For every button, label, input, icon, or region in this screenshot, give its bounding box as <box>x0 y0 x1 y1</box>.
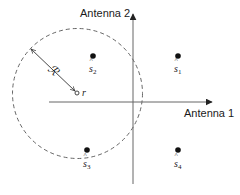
received-point-r <box>75 91 79 95</box>
x-axis-label: Antenna 1 <box>184 108 234 119</box>
point-label-s2: s2 <box>89 64 96 76</box>
point-label-s3: s3 <box>83 159 90 171</box>
point-label-s1: s1 <box>174 64 181 76</box>
received-point-label: r <box>82 88 86 98</box>
constellation-diagram <box>0 0 240 195</box>
y-axis-label: Antenna 2 <box>80 8 130 19</box>
point-label-s4: s4 <box>174 159 181 171</box>
